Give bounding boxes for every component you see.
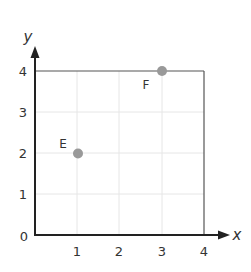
x-tick-1: 1 bbox=[73, 244, 81, 259]
y-axis-arrow-icon bbox=[31, 46, 40, 58]
y-tick-2: 2 bbox=[19, 146, 27, 161]
y-tick-labels: 0 1 2 3 4 bbox=[19, 64, 28, 244]
coordinate-plane: y x 0 1 2 3 4 1 2 3 4 E F bbox=[0, 0, 251, 272]
x-tick-2: 2 bbox=[115, 244, 123, 259]
x-tick-4: 4 bbox=[200, 244, 208, 259]
x-axis-arrow-icon bbox=[218, 231, 230, 240]
point-f-label: F bbox=[143, 78, 150, 92]
y-tick-1: 1 bbox=[19, 187, 27, 202]
point-f bbox=[157, 66, 167, 76]
point-e-label: E bbox=[59, 137, 67, 151]
x-axis-label: x bbox=[232, 226, 242, 244]
x-tick-labels: 1 2 3 4 bbox=[73, 244, 208, 259]
x-tick-3: 3 bbox=[158, 244, 166, 259]
y-axis-label: y bbox=[23, 28, 34, 46]
y-tick-4: 4 bbox=[19, 64, 27, 79]
grid bbox=[35, 71, 204, 235]
y-tick-3: 3 bbox=[19, 105, 27, 120]
point-e bbox=[73, 149, 83, 159]
y-tick-0: 0 bbox=[20, 229, 28, 244]
